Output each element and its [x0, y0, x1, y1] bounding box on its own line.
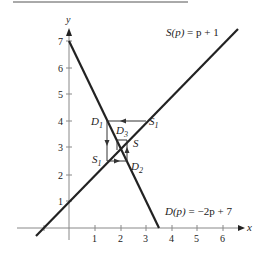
x-tick-3: 3 — [143, 233, 148, 244]
label-S1-left: S1 — [92, 153, 102, 168]
x-tick-5: 5 — [194, 233, 199, 244]
x-axis-arrow-icon — [238, 225, 245, 231]
arrow-right-icon — [114, 159, 120, 164]
y-tick-1: 1 — [58, 196, 63, 207]
y-tick-2: 2 — [58, 170, 63, 181]
y-axis-arrow-icon — [66, 28, 72, 36]
x-tick-1: 1 — [92, 233, 97, 244]
label-S1-right: S1 — [149, 115, 159, 130]
label-D1: D1 — [90, 115, 103, 130]
label-S-equilibrium: S — [133, 137, 139, 149]
y-tick-5: 5 — [58, 89, 63, 100]
demand-line — [69, 41, 159, 228]
y-tick-6: 6 — [58, 63, 63, 74]
cobweb-path — [107, 121, 146, 161]
y-tick-3: 3 — [58, 142, 63, 153]
x-axis-label: x — [246, 221, 252, 233]
supply-equation-label: S(p) = p + 1 — [166, 26, 219, 39]
label-D3: D3 — [115, 124, 128, 139]
arrow-up-icon — [125, 147, 130, 153]
y-tick-4: 4 — [58, 116, 63, 127]
x-tick-2: 2 — [118, 233, 123, 244]
demand-equation-label: D(p) = −2p + 7 — [164, 205, 232, 218]
cobweb-diagram: x 1 2 3 4 5 6 y 1 2 3 — [0, 0, 257, 254]
arrow-left-icon — [120, 119, 126, 124]
y-axis-label: y — [65, 14, 71, 25]
arrow-down-icon — [105, 140, 110, 146]
x-tick-4: 4 — [169, 233, 174, 244]
y-tick-7: 7 — [58, 36, 63, 47]
x-tick-6: 6 — [220, 233, 225, 244]
x-axis: x 1 2 3 4 5 6 — [17, 221, 252, 244]
